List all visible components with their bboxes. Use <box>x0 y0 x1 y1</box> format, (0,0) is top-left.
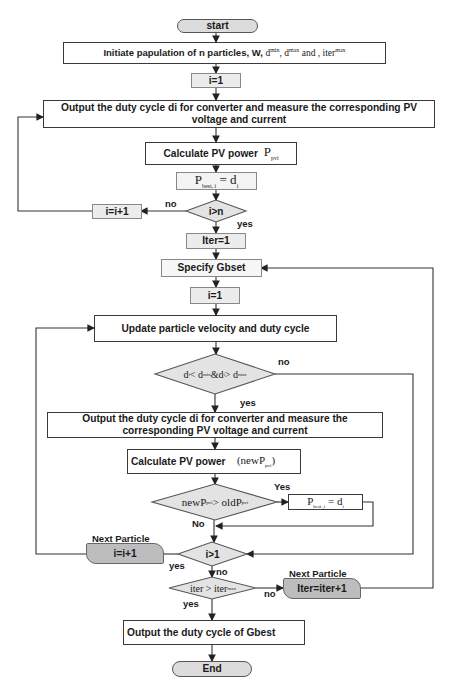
label-yes: yes <box>237 218 253 229</box>
initiate-population-box: Initiate papulation of n particles, W, d… <box>63 42 386 64</box>
decision-duty-bounds: di < dmin&di > dmax <box>165 364 265 384</box>
init-i-box-2: i=1 <box>190 287 240 304</box>
pbest-assign-box-1: Pbest, i = di <box>176 172 257 190</box>
label-no: no <box>264 588 276 599</box>
calculate-pv-power-box-1: Calculate PV power Ppvi <box>145 142 297 165</box>
init-params: dmin, dmax and , itermax <box>265 47 345 59</box>
iter-init-box: Iter=1 <box>186 233 246 249</box>
init-i-box: i=1 <box>191 73 241 88</box>
end-terminal: End <box>172 661 252 677</box>
label-no: No <box>192 518 205 529</box>
label-no: no <box>216 566 228 577</box>
calculate-pv-power-box-2: Calculate PV power (newPpvi) <box>127 449 301 474</box>
increment-i-box-1: i=i+1 <box>92 204 142 219</box>
output-duty-cycle-box-2: Output the duty cycle di for converter a… <box>47 412 383 438</box>
decision-power-improved: newPpvi > oldPpvi <box>165 492 265 512</box>
label-yes: yes <box>169 560 185 571</box>
increment-iter-tape: Iter=iter+1 <box>283 578 361 599</box>
label-no: no <box>165 198 177 209</box>
decision-i-gt-1: i>1 <box>178 542 247 566</box>
label-yes: yes <box>183 598 199 609</box>
increment-i-tape: i=i+1 <box>86 543 164 564</box>
update-velocity-box: Update particle velocity and duty cycle <box>94 315 337 342</box>
output-gbest-box: Output the duty cycle of Gbest <box>123 620 305 645</box>
label-no: no <box>278 356 290 367</box>
start-terminal: start <box>177 19 258 33</box>
output-duty-cycle-box-1: Output the duty cycle di for converter a… <box>43 100 435 128</box>
decision-iter-max: iter > itermax <box>180 579 246 597</box>
pbest-assign-box-2: Pbest ,i = di <box>288 494 363 510</box>
label-yes: Yes <box>274 481 290 492</box>
label-yes: yes <box>240 397 256 408</box>
specify-gbest-box: Specify Gbset <box>161 259 262 277</box>
